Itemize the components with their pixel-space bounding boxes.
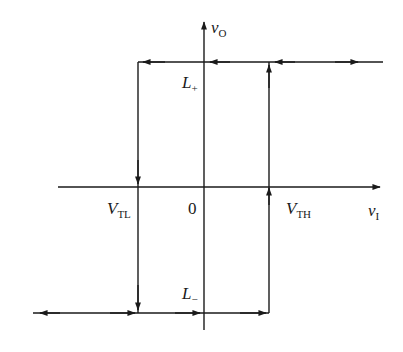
x-axis-label: vI (368, 202, 379, 219)
y-axis-label: vO (211, 19, 227, 36)
upper-level-label: L+ (182, 74, 198, 91)
hysteresis-diagram (0, 0, 403, 352)
lower-level-label: L− (182, 285, 198, 302)
vtl-label: VTL (107, 200, 131, 217)
vth-label: VTH (286, 200, 311, 217)
origin-label: 0 (188, 200, 197, 217)
